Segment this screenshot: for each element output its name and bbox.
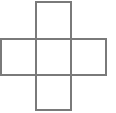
square-bottom-face — [36, 75, 71, 110]
square-middle-left-face — [1, 39, 36, 75]
square-top-face — [36, 2, 71, 39]
square-center-face — [36, 39, 71, 75]
cross-shape-diagram: Cross-shaped arrangement of five squares… — [0, 0, 116, 113]
square-middle-right-face — [71, 39, 106, 75]
figure-container: Cross-shaped arrangement of five squares… — [0, 0, 116, 113]
